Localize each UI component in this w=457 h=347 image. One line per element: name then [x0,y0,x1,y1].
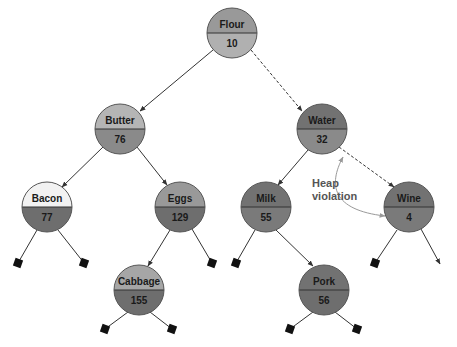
node-value: 32 [316,134,328,145]
annotation-line1: Heap [312,177,339,189]
node-value: 10 [226,38,238,49]
tree-edges [62,50,394,266]
node-pork: Pork 56 [299,265,349,315]
node-value: 129 [172,212,189,223]
node-value: 76 [114,134,126,145]
node-eggs: Eggs 129 [155,182,205,232]
node-name: Flour [220,19,245,30]
heap-tree-diagram: Heap violation Flour 10 Butter 76 Water [0,0,457,347]
node-name: Water [308,115,336,126]
null-leaf-marker [285,324,295,334]
edge-water-milk [278,150,308,185]
edge-flour-butter [140,50,213,111]
edge-butter-eggs [137,147,167,185]
edge-wine-right [421,229,440,264]
node-value: 155 [131,295,148,306]
node-name: Pork [313,276,336,287]
annotation-line2: violation [312,190,358,202]
null-leaf-marker [13,258,23,268]
node-name: Butter [105,115,135,126]
null-leaf-marker [100,324,110,334]
node-name: Bacon [32,193,63,204]
node-name: Milk [256,193,276,204]
null-leaves [13,229,440,334]
null-leaf-marker [207,258,217,268]
null-leaf-marker [352,324,362,334]
heap-violation-arrow [335,157,385,216]
node-value: 55 [260,212,272,223]
null-leaf-marker [370,258,380,268]
heap-violation-annotation: Heap violation [312,157,385,216]
node-value: 77 [41,212,53,223]
node-name: Cabbage [118,276,161,287]
edge-milk-pork [276,230,313,266]
node-wine: Wine 4 [384,182,434,232]
node-flour: Flour 10 [207,8,257,58]
node-bacon: Bacon 77 [22,182,72,232]
node-name: Wine [397,193,421,204]
node-water: Water 32 [297,104,347,154]
edge-butter-bacon [62,147,103,187]
edge-eggs-cabbage [148,230,170,266]
edge-flour-water [251,50,302,111]
edge-water-wine [339,147,394,187]
node-value: 4 [406,212,412,223]
null-leaf-marker [167,324,177,334]
node-butter: Butter 76 [95,104,145,154]
null-leaf-marker [231,258,241,268]
node-value: 56 [318,295,330,306]
node-cabbage: Cabbage 155 [114,265,164,315]
node-name: Eggs [168,193,193,204]
null-leaf-marker [79,258,89,268]
node-milk: Milk 55 [241,182,291,232]
